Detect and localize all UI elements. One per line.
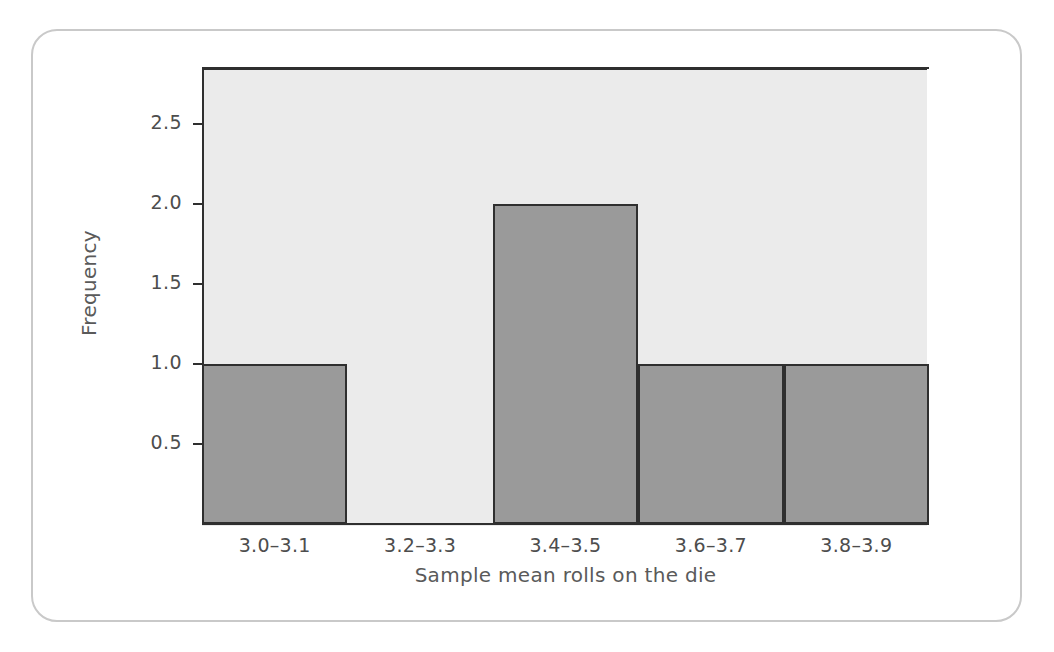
x-axis-category-label: 3.6–3.7 xyxy=(638,534,783,556)
x-axis-category-label: 3.8–3.9 xyxy=(784,534,929,556)
histogram-bar xyxy=(493,204,638,524)
y-axis-tick-label: 2.0 xyxy=(122,191,182,213)
histogram-chart: 0.51.01.52.02.5 3.0–3.13.2–3.33.4–3.53.6… xyxy=(33,31,1024,624)
y-axis-tick-label: 0.5 xyxy=(122,431,182,453)
y-axis-tick-mark xyxy=(193,203,202,205)
x-axis-category-label: 3.4–3.5 xyxy=(493,534,638,556)
x-axis-category-label: 3.2–3.3 xyxy=(347,534,492,556)
y-axis-tick-label: 2.5 xyxy=(122,111,182,133)
x-axis-category-label: 3.0–3.1 xyxy=(202,534,347,556)
y-axis-title: Frequency xyxy=(77,183,101,383)
histogram-bar xyxy=(638,364,783,524)
histogram-bar xyxy=(202,364,347,524)
figure-card: 0.51.01.52.02.5 3.0–3.13.2–3.33.4–3.53.6… xyxy=(31,29,1022,622)
y-axis-tick-mark xyxy=(193,443,202,445)
y-axis-tick-label: 1.0 xyxy=(122,351,182,373)
y-axis-tick-mark xyxy=(193,283,202,285)
y-axis-tick-mark xyxy=(193,123,202,125)
histogram-bar xyxy=(784,364,929,524)
plot-top-border xyxy=(202,67,929,69)
y-axis-tick-mark xyxy=(193,363,202,365)
y-axis-tick-label: 1.5 xyxy=(122,271,182,293)
x-axis-title: Sample mean rolls on the die xyxy=(202,563,929,587)
